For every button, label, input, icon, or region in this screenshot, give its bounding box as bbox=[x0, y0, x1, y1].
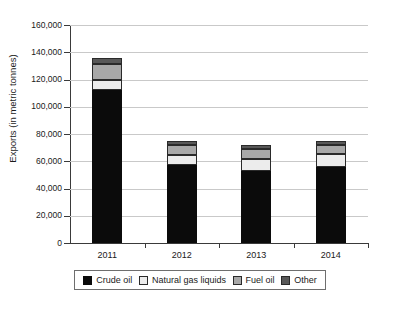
bar-segment-crude bbox=[92, 90, 122, 243]
legend-label: Other bbox=[294, 275, 317, 285]
bar-segment-crude bbox=[241, 171, 271, 243]
y-axis-tick-label: 120,000 bbox=[4, 75, 62, 84]
bar-stack bbox=[167, 25, 197, 243]
x-axis-tick-label: 2011 bbox=[77, 250, 137, 260]
bar-segment-other bbox=[92, 58, 122, 64]
x-axis-tick-mark bbox=[145, 243, 146, 248]
legend-swatch-fuel bbox=[233, 276, 242, 285]
bar-segment-fuel bbox=[316, 145, 346, 155]
y-axis-tick-label: 0 bbox=[4, 239, 62, 248]
x-axis-tick-mark bbox=[294, 243, 295, 248]
bar-segment-other bbox=[167, 141, 197, 145]
legend-label: Natural gas liquids bbox=[152, 275, 226, 285]
bar-segment-other bbox=[241, 145, 271, 149]
bar-segment-crude bbox=[316, 167, 346, 243]
y-axis-tick-label: 20,000 bbox=[4, 211, 62, 220]
legend-label: Fuel oil bbox=[246, 275, 275, 285]
chart-figure: Exports (in metric tonnes) 160,000140,00… bbox=[0, 0, 394, 310]
y-axis-tick-label: 80,000 bbox=[4, 130, 62, 139]
legend-swatch-ngl bbox=[139, 276, 148, 285]
plot-area bbox=[70, 25, 368, 243]
bar-segment-ngl bbox=[167, 155, 197, 165]
bar-segment-fuel bbox=[167, 145, 197, 155]
legend-item[interactable]: Fuel oil bbox=[233, 275, 275, 285]
bar-segment-ngl bbox=[316, 154, 346, 167]
y-axis-tick-label: 60,000 bbox=[4, 157, 62, 166]
bar-stack bbox=[92, 25, 122, 243]
bar-segment-ngl bbox=[241, 159, 271, 171]
legend-item[interactable]: Natural gas liquids bbox=[139, 275, 226, 285]
bar-segment-fuel bbox=[241, 149, 271, 159]
x-axis-tick-label: 2013 bbox=[226, 250, 286, 260]
chart-legend: Crude oilNatural gas liquidsFuel oilOthe… bbox=[74, 270, 326, 290]
bar-segment-crude bbox=[167, 165, 197, 243]
legend-item[interactable]: Crude oil bbox=[83, 275, 132, 285]
legend-label: Crude oil bbox=[96, 275, 132, 285]
x-axis-tick-label: 2012 bbox=[152, 250, 212, 260]
bar-segment-other bbox=[316, 141, 346, 145]
x-axis-tick-mark bbox=[368, 243, 369, 248]
legend-swatch-other bbox=[281, 276, 290, 285]
y-axis-tick-label: 40,000 bbox=[4, 184, 62, 193]
bar-segment-ngl bbox=[92, 80, 122, 90]
x-axis-tick-mark bbox=[219, 243, 220, 248]
y-axis-tick-label: 140,000 bbox=[4, 48, 62, 57]
y-axis-tick-label: 100,000 bbox=[4, 102, 62, 111]
bar-segment-fuel bbox=[92, 64, 122, 80]
legend-swatch-crude bbox=[83, 276, 92, 285]
bar-stack bbox=[241, 25, 271, 243]
y-axis-tick-label: 160,000 bbox=[4, 21, 62, 30]
bar-stack bbox=[316, 25, 346, 243]
x-axis-tick-label: 2014 bbox=[301, 250, 361, 260]
legend-item[interactable]: Other bbox=[281, 275, 317, 285]
